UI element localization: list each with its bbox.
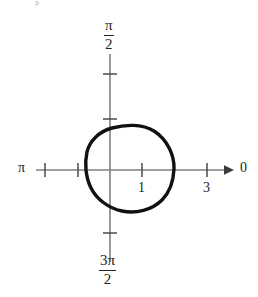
axis-label-three-pi-over-two: 3π 2 [98,253,117,288]
three-pi-over-two-denominator: 2 [98,271,117,288]
polar-plot-figure: p π 0 1 3 π 2 3π [0,0,258,297]
limacon-curve [86,125,174,212]
axis-label-pi: π [18,161,25,175]
pi-over-two-denominator: 2 [103,36,115,53]
polar-plot-svg [0,0,258,297]
cropped-text-artifact: p [30,0,44,6]
axis-label-zero: 0 [240,161,247,175]
horizontal-axis-arrowhead [224,165,234,175]
pi-over-two-numerator: π [103,18,115,35]
three-pi-over-two-numerator: 3π [98,253,117,270]
axis-label-pi-over-two: π 2 [103,18,115,53]
tick-label-one: 1 [138,181,145,195]
tick-label-three: 3 [203,181,210,195]
